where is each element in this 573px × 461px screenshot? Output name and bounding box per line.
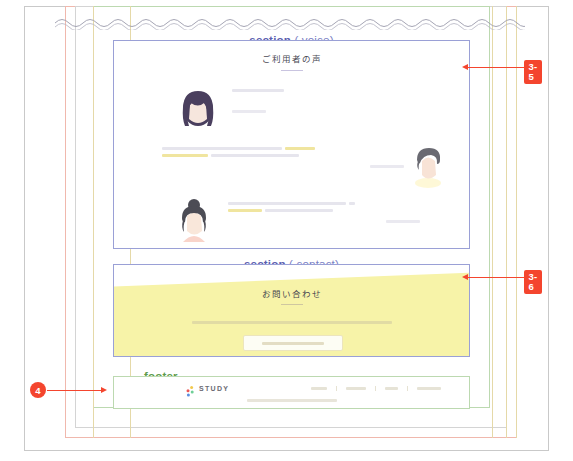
vertical-guide-1 <box>492 6 493 438</box>
footer-copyright <box>247 399 337 402</box>
annotation-badge: 3-5 <box>524 60 542 84</box>
footer-nav-item[interactable] <box>385 387 398 390</box>
annotation-badge: 3-6 <box>524 270 542 294</box>
annotation-arrow-head <box>101 387 107 393</box>
footer-nav-separator <box>336 386 337 391</box>
voice-heading: ご利用者の声 <box>114 41 469 71</box>
footer-logo-text: STUDY <box>199 385 229 392</box>
man-short-dark-hair-avatar <box>404 141 452 189</box>
contact-heading-underline <box>281 304 303 305</box>
footer-nav-item[interactable] <box>311 387 327 390</box>
annotation-arrow-line <box>47 390 102 391</box>
vertical-guide-2 <box>506 6 507 438</box>
voice-section: ご利用者の声 <box>113 40 470 249</box>
footer-logo[interactable]: STUDY <box>186 383 229 394</box>
list-item <box>174 83 419 131</box>
dots-logo-icon <box>186 383 195 394</box>
woman-bun-hair-avatar <box>170 196 218 244</box>
footer-nav-separator <box>407 386 408 391</box>
footer-section: STUDY <box>113 376 470 409</box>
testimonial-body <box>162 141 404 168</box>
page-content: section (.voice) ご利用者の声 <box>93 6 490 408</box>
annotation-arrow-line <box>468 67 524 68</box>
vertical-guide-3 <box>516 6 517 438</box>
footer-nav-separator <box>375 386 376 391</box>
footer-nav-item[interactable] <box>346 387 366 390</box>
contact-button[interactable] <box>243 335 343 351</box>
annotation-badge: 4 <box>30 382 46 398</box>
annotation-arrow-head <box>462 64 468 70</box>
footer-nav-item[interactable] <box>417 387 441 390</box>
annotation-arrow-head <box>462 274 468 280</box>
annotation-arrow-line <box>468 277 524 278</box>
testimonial-body <box>228 196 420 223</box>
voice-heading-underline <box>281 70 303 71</box>
testimonial-body <box>232 83 419 113</box>
contact-button-label <box>262 342 324 345</box>
list-item <box>170 196 420 244</box>
contact-section: お問い合わせ <box>113 264 470 357</box>
contact-heading: お問い合わせ <box>114 287 469 299</box>
contact-description <box>192 321 392 324</box>
footer-nav <box>311 386 441 391</box>
woman-long-dark-purple-hair-avatar <box>174 83 222 131</box>
testimonial-author <box>370 165 404 168</box>
testimonial-author <box>386 220 420 223</box>
list-item <box>162 141 452 189</box>
